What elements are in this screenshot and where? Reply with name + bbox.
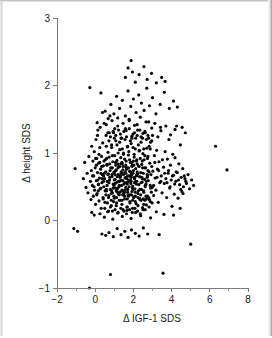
data-point — [122, 130, 125, 133]
data-point — [141, 160, 144, 163]
data-point — [107, 209, 110, 212]
data-point — [133, 207, 136, 210]
data-point — [113, 173, 116, 176]
data-point — [170, 178, 173, 181]
data-point — [144, 184, 147, 187]
data-point — [102, 180, 105, 183]
data-point — [119, 156, 122, 159]
data-point — [128, 127, 131, 130]
data-point — [145, 180, 148, 183]
data-point — [100, 232, 103, 235]
data-point — [125, 212, 128, 215]
data-point — [104, 134, 107, 137]
data-point — [165, 196, 168, 199]
data-point — [150, 191, 153, 194]
data-point — [134, 137, 137, 140]
y-tick-labels-group: −10123 — [39, 13, 51, 294]
data-point — [120, 161, 123, 164]
data-point — [145, 138, 148, 141]
data-point — [126, 191, 129, 194]
data-point — [146, 78, 149, 81]
data-point — [131, 146, 134, 149]
data-point — [131, 70, 134, 73]
data-point — [140, 163, 143, 166]
data-point — [126, 89, 129, 92]
data-point — [111, 218, 114, 221]
data-point — [99, 126, 102, 129]
data-point — [107, 196, 110, 199]
data-point — [182, 185, 185, 188]
data-point — [142, 226, 145, 229]
data-point — [148, 162, 151, 165]
data-point — [100, 207, 103, 210]
data-point — [152, 184, 155, 187]
data-point — [139, 171, 142, 174]
y-axis-title: Δ height SDS — [21, 123, 32, 183]
data-point — [162, 213, 165, 216]
data-point — [139, 193, 142, 196]
data-point — [92, 195, 95, 198]
data-point — [133, 155, 136, 158]
data-point — [105, 123, 108, 126]
data-point — [151, 134, 154, 137]
data-point — [94, 138, 97, 141]
data-point — [110, 119, 113, 122]
data-point — [103, 172, 106, 175]
data-point — [100, 155, 103, 158]
data-point — [93, 189, 96, 192]
data-point — [151, 96, 154, 99]
data-point — [173, 182, 176, 185]
scatter-plot: −202468 −10123 Δ IGF-1 SDS Δ height SDS — [0, 0, 272, 338]
data-point — [113, 208, 116, 211]
data-point — [110, 146, 113, 149]
data-point — [136, 162, 139, 165]
data-point — [154, 112, 157, 115]
data-point — [153, 161, 156, 164]
data-point — [150, 139, 153, 142]
data-point — [114, 134, 117, 137]
y-tick-label: 0 — [44, 215, 50, 226]
data-point — [134, 191, 137, 194]
data-point — [153, 122, 156, 125]
data-point — [138, 73, 141, 76]
data-point — [126, 66, 129, 69]
data-point — [125, 135, 128, 138]
data-point — [121, 147, 124, 150]
data-point — [112, 235, 115, 238]
data-point — [97, 189, 100, 192]
data-point — [109, 273, 112, 276]
data-point — [136, 123, 139, 126]
data-point — [179, 188, 182, 191]
data-point — [139, 157, 142, 160]
data-point — [107, 181, 110, 184]
data-point — [127, 166, 130, 169]
data-point — [86, 191, 89, 194]
data-point — [181, 126, 184, 129]
data-point — [142, 191, 145, 194]
data-point — [100, 165, 103, 168]
data-point — [104, 234, 107, 237]
data-point — [94, 203, 97, 206]
data-point — [116, 227, 119, 230]
data-point — [130, 142, 133, 145]
data-point — [155, 210, 158, 213]
data-point — [113, 137, 116, 140]
data-point — [126, 205, 129, 208]
data-point — [134, 111, 137, 114]
data-point — [155, 176, 158, 179]
data-point — [163, 182, 166, 185]
data-point — [83, 161, 86, 164]
data-point — [141, 137, 144, 140]
data-point — [152, 194, 155, 197]
data-point — [149, 187, 152, 190]
data-point — [107, 231, 110, 234]
data-point — [95, 164, 98, 167]
data-point — [97, 199, 100, 202]
data-point — [127, 153, 130, 156]
data-point — [105, 157, 108, 160]
data-point — [159, 103, 162, 106]
data-point — [173, 128, 176, 131]
data-point — [129, 139, 132, 142]
data-point — [102, 185, 105, 188]
data-point — [173, 193, 176, 196]
